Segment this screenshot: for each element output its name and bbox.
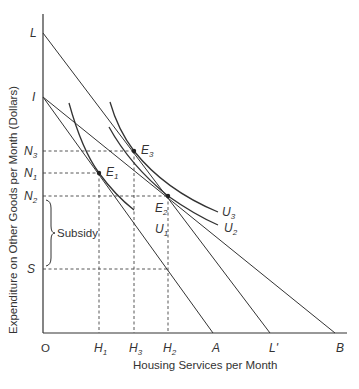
label-E1: E1 (106, 165, 118, 181)
indifference-curve-U1 (69, 103, 134, 210)
label-E3: E3 (141, 143, 154, 159)
subsidy-label: Subsidy (57, 227, 98, 239)
budget-line-I-B (43, 97, 335, 333)
x-label-H2: H2 (163, 341, 177, 357)
point-E2 (166, 194, 170, 198)
diagram-canvas: Subsidy Expenditure on Other Goods per M… (0, 0, 359, 389)
x-label-H1: H1 (94, 341, 107, 357)
y-axis-title: Expenditure on Other Goods per Month (Do… (7, 86, 19, 334)
point-E3 (132, 149, 136, 153)
y-label-N3: N3 (24, 144, 38, 160)
y-label-I: I (32, 90, 36, 104)
x-label-A: A (211, 341, 220, 355)
y-label-S: S (27, 262, 35, 276)
y-label-L: L (30, 26, 37, 40)
y-label-N1: N1 (24, 166, 37, 182)
subsidy-brace (46, 200, 55, 266)
label-U2: U2 (224, 221, 238, 237)
x-label-Lprime: L' (269, 341, 279, 355)
budget-line-I-A (43, 97, 213, 333)
x-label-B: B (336, 341, 344, 355)
label-U1: U1 (155, 222, 168, 238)
point-E1 (97, 171, 101, 175)
label-U3: U3 (222, 205, 236, 221)
origin-label: O (41, 342, 50, 354)
label-E2: E2 (155, 201, 168, 217)
y-label-N2: N2 (24, 189, 38, 205)
housing-subsidy-diagram: Subsidy Expenditure on Other Goods per M… (0, 0, 359, 389)
indifference-curve-U3 (110, 102, 218, 212)
x-label-H3: H3 (129, 341, 143, 357)
budget-line-L-Lprime (43, 33, 270, 333)
x-axis-title: Housing Services per Month (133, 359, 277, 371)
